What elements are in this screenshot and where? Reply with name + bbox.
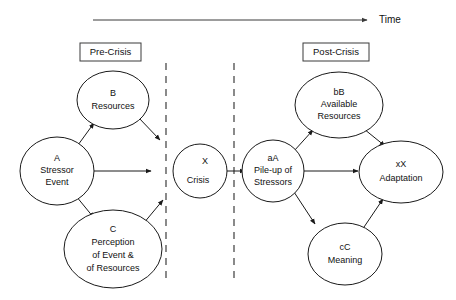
edge-a-to-b <box>78 123 94 145</box>
node-a-line1: A <box>54 153 60 163</box>
node-c-outline <box>64 210 162 288</box>
node-a-stressor-event: A Stressor Event <box>20 137 94 205</box>
node-b-line2: Resources <box>91 101 135 111</box>
node-c-line3: of Event & <box>92 250 134 260</box>
node-c-line4: of Resources <box>86 263 140 273</box>
edge-aa-to-bb <box>294 130 313 151</box>
edge-cc-to-xx <box>362 199 383 230</box>
node-aa-line1: aA <box>267 153 278 163</box>
node-b-line1: B <box>110 88 116 98</box>
node-aa-line2: Pile-up of <box>254 165 293 175</box>
diagram-canvas: Time Pre-Crisis Post-Crisis <box>0 0 456 300</box>
node-c-perception: C Perception of Event & of Resources <box>64 210 162 288</box>
phase-box-post-crisis: Post-Crisis <box>303 43 369 61</box>
node-x-line2: Crisis <box>187 175 210 185</box>
node-bb-line3: Resources <box>317 111 361 121</box>
node-x-line1: X <box>202 156 208 166</box>
node-b-resources: B Resources <box>77 71 149 129</box>
phase-box-pre-crisis: Pre-Crisis <box>80 43 141 61</box>
node-cc-line2: Meaning <box>328 255 363 265</box>
node-bb-available-resources: bB Available Resources <box>295 72 383 138</box>
node-xx-outline <box>359 141 443 203</box>
edge-b-to-x <box>138 117 160 140</box>
node-xx-line1: xX <box>396 159 407 169</box>
node-xx-adaptation: xX Adaptation <box>359 141 443 203</box>
node-aa-line3: Stressors <box>254 177 293 187</box>
node-c-line2: Perception <box>91 237 134 247</box>
time-axis-label: Time <box>379 14 401 25</box>
node-bb-line2: Available <box>321 99 357 109</box>
pre-crisis-label: Pre-Crisis <box>90 46 132 57</box>
edge-aa-to-cc <box>294 192 315 224</box>
double-abcx-model-diagram: Time Pre-Crisis Post-Crisis <box>0 0 456 300</box>
node-c-line1: C <box>110 224 117 234</box>
node-cc-meaning: cC Meaning <box>308 223 382 285</box>
edge-bb-to-xx <box>364 129 385 146</box>
node-a-line2: Stressor <box>40 165 74 175</box>
node-xx-line2: Adaptation <box>379 173 422 183</box>
node-bb-line1: bB <box>333 87 344 97</box>
post-crisis-label: Post-Crisis <box>313 46 359 57</box>
node-aa-pileup: aA Pile-up of Stressors <box>242 140 304 202</box>
node-x-crisis: X Crisis <box>173 144 227 198</box>
node-cc-outline <box>308 223 382 285</box>
node-x-outline <box>173 144 227 198</box>
node-a-line3: Event <box>45 177 69 187</box>
node-b-outline <box>77 71 149 129</box>
node-cc-line1: cC <box>340 242 352 252</box>
